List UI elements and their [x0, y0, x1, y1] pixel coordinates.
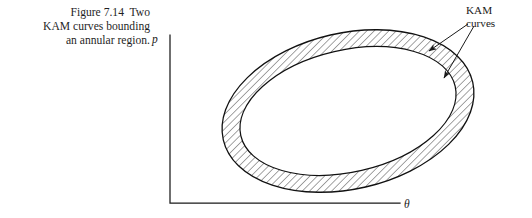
figure-container: Figure 7.14 Two KAM curves bounding an a…: [0, 0, 532, 218]
x-axis-label: θ: [404, 198, 410, 210]
figure-diagram: [0, 0, 532, 218]
annotation-line-2: curves: [466, 17, 495, 30]
kam-curves-annotation: KAM curves: [466, 4, 495, 31]
annular-region: [0, 0, 532, 218]
annotation-line-1: KAM: [466, 4, 495, 17]
y-axis-label: p: [152, 33, 158, 45]
